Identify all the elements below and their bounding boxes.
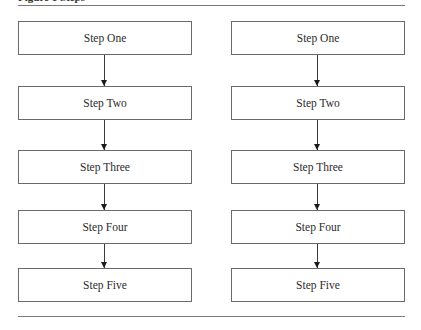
step-box-5: Step Five xyxy=(231,268,405,302)
step-box-1: Step One xyxy=(231,21,405,55)
step-label: Step Three xyxy=(80,161,130,173)
arrow-down-icon xyxy=(104,244,105,268)
flow-column-right: Step One Step Two Step Three Step Four S… xyxy=(231,0,405,330)
bottom-rule xyxy=(18,316,405,317)
arrow-down-icon xyxy=(317,184,318,210)
step-label: Step Four xyxy=(295,221,340,233)
step-label: Step Five xyxy=(83,279,127,291)
step-label: Step Two xyxy=(83,97,126,109)
flow-column-left: Step One Step Two Step Three Step Four S… xyxy=(18,0,192,330)
step-box-4: Step Four xyxy=(18,210,192,244)
arrow-down-icon xyxy=(317,55,318,86)
arrow-down-icon xyxy=(104,55,105,86)
arrow-down-icon xyxy=(317,120,318,150)
step-label: Step Two xyxy=(296,97,339,109)
arrow-down-icon xyxy=(104,184,105,210)
step-label: Step One xyxy=(297,32,339,44)
step-box-5: Step Five xyxy=(18,268,192,302)
arrow-down-icon xyxy=(104,120,105,150)
step-box-2: Step Two xyxy=(18,86,192,120)
step-box-1: Step One xyxy=(18,21,192,55)
step-label: Step One xyxy=(84,32,126,44)
step-label: Step Three xyxy=(293,161,343,173)
arrow-down-icon xyxy=(317,244,318,268)
step-label: Step Five xyxy=(296,279,340,291)
step-box-3: Step Three xyxy=(18,150,192,184)
step-box-3: Step Three xyxy=(231,150,405,184)
step-box-4: Step Four xyxy=(231,210,405,244)
step-label: Step Four xyxy=(82,221,127,233)
step-box-2: Step Two xyxy=(231,86,405,120)
